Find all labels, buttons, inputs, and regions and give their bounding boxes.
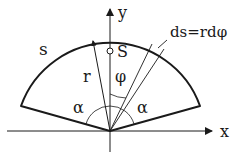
alpha-arc-right (110, 106, 134, 124)
sector-diagram: s y x r S φ α α ds=rdφ (0, 0, 244, 163)
y-axis-label: y (117, 3, 127, 22)
radius-arrow (93, 41, 110, 131)
centroid-marker (107, 48, 113, 54)
phi-arc (110, 94, 126, 98)
x-axis-label: x (220, 122, 229, 141)
element-label: ds=rdφ (170, 23, 227, 41)
radius-label: r (83, 67, 91, 86)
centroid-label: S (117, 42, 128, 61)
arc-label: s (39, 39, 48, 59)
phi-label: φ (115, 67, 126, 86)
ds-leader (158, 40, 167, 48)
alpha-arc-left (86, 106, 110, 124)
alpha-right-label: α (137, 98, 148, 117)
alpha-left-label: α (73, 98, 84, 117)
